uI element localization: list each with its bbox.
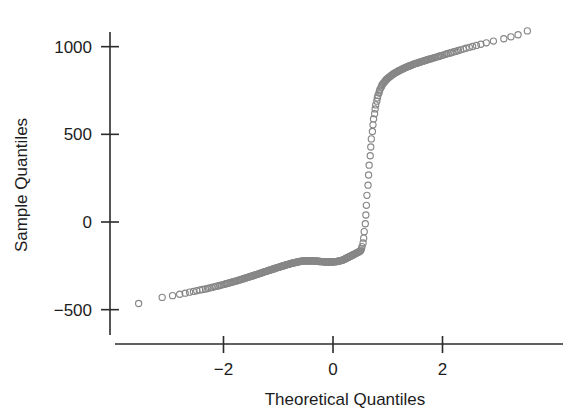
data-point: [361, 229, 367, 235]
data-point: [365, 172, 371, 178]
y-tick-label: −500: [54, 301, 92, 320]
y-tick-label: 0: [83, 213, 92, 232]
data-point: [508, 34, 514, 40]
plot-canvas: −50005001000 Sample Quantiles −202 Theor…: [0, 0, 587, 416]
data-point: [363, 202, 369, 208]
data-point: [370, 122, 376, 128]
data-point: [363, 212, 369, 218]
data-point: [364, 192, 370, 198]
data-point: [515, 32, 521, 38]
data-point: [524, 28, 530, 34]
x-tick-label: 0: [328, 360, 337, 379]
data-point: [136, 300, 142, 306]
y-axis-group: −50005001000 Sample Quantiles: [12, 32, 119, 335]
data-point: [362, 221, 368, 227]
data-point: [169, 293, 175, 299]
data-point: [366, 162, 372, 168]
data-point: [368, 144, 374, 150]
y-axis-title: Sample Quantiles: [12, 118, 31, 252]
y-tick-label: 1000: [54, 38, 92, 57]
y-tick-label: 500: [64, 125, 92, 144]
data-point: [490, 38, 496, 44]
x-axis-group: −202 Theoretical Quantiles: [115, 336, 563, 409]
data-points-group: [136, 28, 531, 307]
data-point: [367, 153, 373, 159]
data-point: [368, 136, 374, 142]
data-point: [369, 128, 375, 134]
data-point: [365, 182, 371, 188]
qq-plot-figure: −50005001000 Sample Quantiles −202 Theor…: [0, 0, 587, 416]
x-axis-ticks: −202: [214, 336, 447, 379]
x-tick-label: −2: [214, 360, 233, 379]
data-point: [501, 36, 507, 42]
data-point: [159, 294, 165, 300]
x-tick-label: 2: [438, 360, 447, 379]
x-axis-title: Theoretical Quantiles: [265, 390, 426, 409]
